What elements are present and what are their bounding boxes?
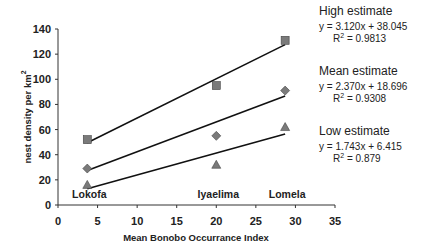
x-tick-label: 20: [210, 215, 222, 227]
site-label: Lomela: [269, 188, 306, 200]
triangle-marker: [212, 160, 221, 168]
y-tick-label: 0: [45, 199, 51, 211]
diamond-marker: [212, 131, 221, 140]
x-tick-label: 5: [95, 215, 101, 227]
site-label: Iyaelima: [198, 188, 240, 200]
legend-high: High estimate y = 3.120x + 38.045 R2 = 0…: [319, 4, 407, 44]
diamond-marker: [281, 86, 290, 95]
triangle-marker: [281, 123, 290, 131]
legend-title-low: Low estimate: [319, 124, 402, 138]
equation-mean: y = 2.370x + 18.696: [319, 81, 407, 92]
y-tick-label: 40: [39, 149, 51, 161]
x-tick-label: 30: [289, 215, 301, 227]
diamond-marker: [83, 164, 92, 173]
r2-low: R2 = 0.879: [319, 152, 402, 164]
r2-high: R2 = 0.9813: [319, 32, 407, 44]
trend-line: [87, 96, 285, 170]
equation-low: y = 1.743x + 6.415: [319, 141, 402, 152]
x-tick-label: 15: [171, 215, 183, 227]
x-axis-label: Mean Bonobo Occurrance Index: [123, 232, 269, 243]
square-marker: [281, 36, 289, 44]
y-tick-label: 120: [33, 48, 51, 60]
y-tick-label: 100: [33, 73, 51, 85]
site-label: Lokofa: [72, 188, 107, 200]
trend-line: [87, 45, 285, 143]
trend-line: [87, 134, 285, 189]
x-tick-label: 10: [131, 215, 143, 227]
data-markers: [83, 36, 290, 188]
r2-mean: R2 = 0.9308: [319, 92, 407, 104]
x-tick-label: 0: [55, 215, 61, 227]
legend-mean: Mean estimate y = 2.370x + 18.696 R2 = 0…: [319, 64, 407, 104]
y-tick-label: 140: [33, 23, 51, 35]
square-marker: [83, 136, 91, 144]
square-marker: [212, 82, 220, 90]
equation-high: y = 3.120x + 38.045: [319, 21, 407, 32]
legend-title-mean: Mean estimate: [319, 64, 407, 78]
y-tick-label: 80: [39, 98, 51, 110]
y-tick-label: 20: [39, 174, 51, 186]
legend-title-high: High estimate: [319, 4, 407, 18]
legend-low: Low estimate y = 1.743x + 6.415 R2 = 0.8…: [319, 124, 402, 164]
site-labels: LokofaIyaelimaLomela: [72, 188, 306, 200]
y-tick-label: 60: [39, 124, 51, 136]
trend-lines: [87, 45, 285, 189]
x-tick-label: 35: [329, 215, 341, 227]
x-tick-label: 25: [250, 215, 262, 227]
y-axis-label: nest density per km2: [20, 70, 33, 163]
